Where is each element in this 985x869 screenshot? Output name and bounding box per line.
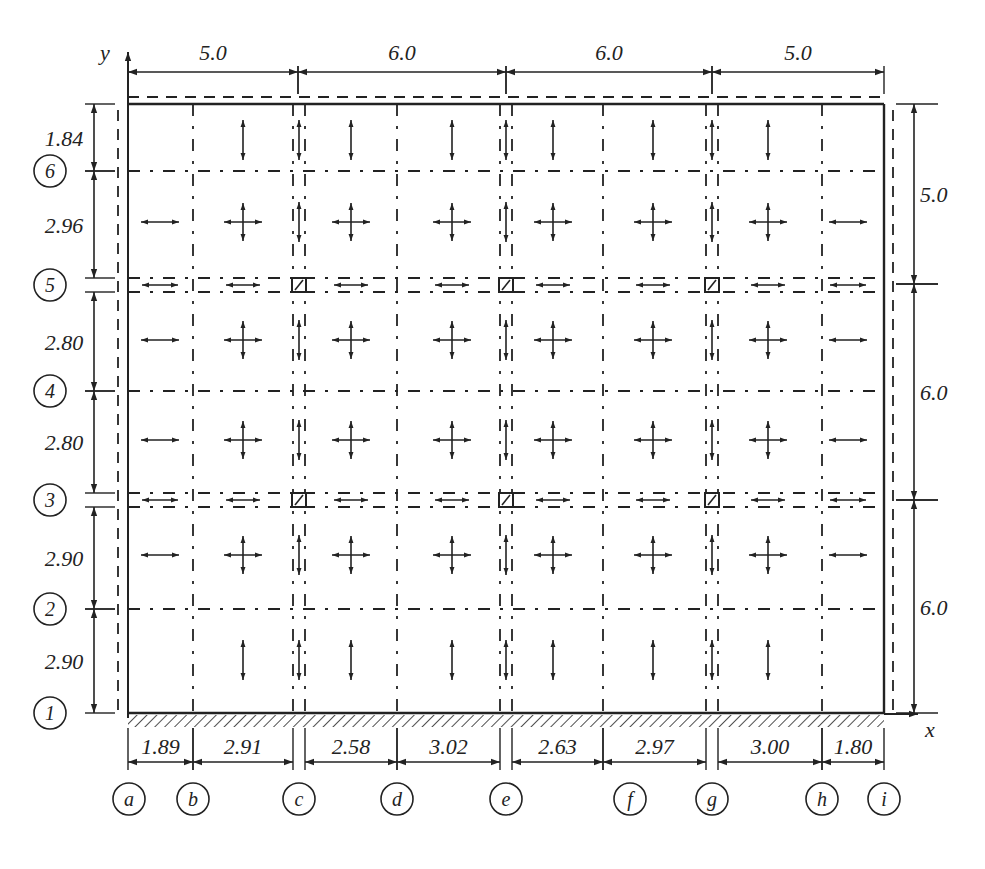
ground-hatch bbox=[128, 715, 884, 727]
right-dimension-value: 5.0 bbox=[920, 182, 948, 207]
row-axis-label: 5 bbox=[45, 274, 55, 296]
slab-outline bbox=[118, 97, 893, 727]
bottom-dimension-value: 2.97 bbox=[635, 734, 675, 759]
bottom-dimension-value: 3.00 bbox=[750, 734, 790, 759]
column-axis-label: e bbox=[502, 788, 511, 810]
column-axis-label: b bbox=[188, 788, 198, 810]
bottom-dimension-value: 1.80 bbox=[834, 734, 873, 759]
row-axis-label: 3 bbox=[44, 489, 55, 511]
top-dimension-value: 5.0 bbox=[199, 40, 227, 65]
left-dimension-value: 2.80 bbox=[45, 330, 84, 355]
y-axis: y bbox=[98, 40, 128, 718]
grid-lines bbox=[128, 104, 884, 713]
bottom-dimension-value: 1.89 bbox=[141, 734, 180, 759]
left-dimension-value: 2.80 bbox=[45, 430, 84, 455]
top-dimension-value: 6.0 bbox=[388, 40, 416, 65]
x-axis-label: x bbox=[924, 717, 935, 742]
right-dimension-value: 6.0 bbox=[920, 595, 948, 620]
row-axis-label: 1 bbox=[45, 702, 55, 724]
left-dimension-value: 2.90 bbox=[45, 649, 84, 674]
stress-arrows bbox=[141, 120, 867, 680]
bottom-dimension-value: 3.02 bbox=[428, 734, 468, 759]
bottom-dimension-value: 2.58 bbox=[332, 734, 371, 759]
bottom-dimension-value: 2.63 bbox=[538, 734, 577, 759]
x-axis: x bbox=[884, 714, 935, 742]
column-axis-label: d bbox=[392, 788, 403, 810]
column-axis-label: h bbox=[817, 788, 827, 810]
top-dimension-value: 6.0 bbox=[595, 40, 623, 65]
left-dimension-value: 1.84 bbox=[45, 126, 84, 151]
column-axis-label: g bbox=[707, 788, 717, 811]
slab-grid-diagram: 5.06.06.05.01.892.912.583.022.632.973.00… bbox=[0, 0, 985, 869]
column-axis-label: c bbox=[295, 788, 304, 810]
left-dimension-value: 2.96 bbox=[45, 213, 84, 238]
dimension-lines: 5.06.06.05.01.892.912.583.022.632.973.00… bbox=[45, 40, 948, 770]
columns-hatched bbox=[292, 278, 719, 507]
row-axis-label: 4 bbox=[45, 380, 55, 402]
row-axis-label: 2 bbox=[45, 598, 55, 620]
row-axis-label: 6 bbox=[45, 160, 55, 182]
column-axis-label: a bbox=[124, 788, 134, 810]
right-dimension-value: 6.0 bbox=[920, 380, 948, 405]
top-dimension-value: 5.0 bbox=[784, 40, 812, 65]
left-dimension-value: 2.90 bbox=[45, 546, 84, 571]
bottom-dimension-value: 2.91 bbox=[224, 734, 263, 759]
column-axis-label: i bbox=[881, 788, 887, 810]
y-axis-label: y bbox=[98, 40, 110, 65]
